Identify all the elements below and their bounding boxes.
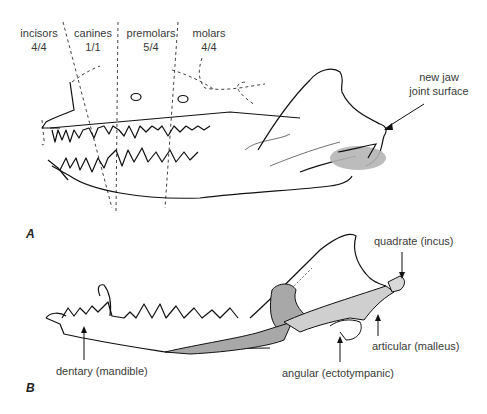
angular-bone — [165, 322, 292, 354]
panel-a-drawing — [42, 22, 386, 212]
panel-b-drawing — [46, 235, 386, 352]
divider-incisor-canine — [63, 22, 112, 208]
jaw-diagram — [0, 0, 487, 414]
divider-premolar-molar — [165, 22, 178, 208]
new-jaw-joint-area — [330, 146, 386, 170]
divider-canine-premolar — [116, 22, 118, 212]
